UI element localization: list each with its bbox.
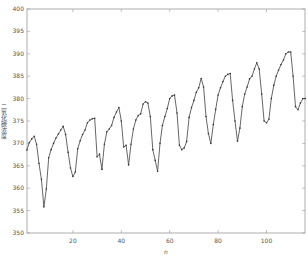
data-point-marker xyxy=(285,53,287,55)
data-point-marker xyxy=(55,137,57,139)
data-point-marker xyxy=(65,134,67,136)
data-point-marker xyxy=(174,94,176,96)
data-point-marker xyxy=(82,134,84,136)
data-point-marker xyxy=(280,64,282,66)
data-point-marker xyxy=(278,69,280,71)
data-point-marker xyxy=(261,93,263,95)
data-point-marker xyxy=(130,143,132,145)
data-point-marker xyxy=(300,102,302,104)
data-point-marker xyxy=(203,86,205,88)
x-axis-ticks: 20406080100 xyxy=(69,9,272,244)
data-point-marker xyxy=(297,109,299,111)
data-point-marker xyxy=(137,115,139,117)
x-tick-label: 60 xyxy=(166,237,174,244)
x-axis-label: n xyxy=(164,248,168,255)
data-point-marker xyxy=(159,143,161,145)
data-point-marker xyxy=(246,86,248,88)
x-tick-label: 100 xyxy=(261,237,273,244)
data-point-marker xyxy=(36,143,38,145)
data-point-marker xyxy=(53,143,55,145)
data-point-marker xyxy=(94,118,96,120)
data-point-marker xyxy=(111,125,113,127)
data-point-marker xyxy=(171,95,173,97)
data-point-marker xyxy=(70,167,72,169)
data-point-marker xyxy=(166,108,168,110)
data-point-marker xyxy=(101,169,103,171)
data-point-marker xyxy=(254,68,256,70)
data-point-marker xyxy=(275,75,277,77)
data-point-marker xyxy=(295,106,297,108)
data-point-marker xyxy=(220,87,222,89)
data-point-marker xyxy=(26,149,28,151)
data-point-marker xyxy=(304,98,306,100)
data-point-marker xyxy=(38,163,40,165)
data-point-marker xyxy=(89,119,91,121)
data-point-marker xyxy=(116,111,118,113)
data-point-marker xyxy=(142,103,144,105)
data-point-marker xyxy=(302,98,304,100)
data-point-marker xyxy=(271,98,273,100)
x-tick-label: 40 xyxy=(117,237,125,244)
data-point-marker xyxy=(87,122,89,124)
data-point-marker xyxy=(162,125,164,127)
data-point-marker xyxy=(145,101,147,103)
data-point-marker xyxy=(60,129,62,131)
data-point-marker xyxy=(179,144,181,146)
data-point-marker xyxy=(121,120,123,122)
data-point-marker xyxy=(237,140,239,142)
data-point-marker xyxy=(125,144,127,146)
data-point-marker xyxy=(183,147,185,149)
data-point-marker xyxy=(118,107,120,109)
data-point-marker xyxy=(222,81,224,83)
data-point-marker xyxy=(77,148,79,150)
data-point-marker xyxy=(256,62,258,64)
y-tick-label: 355 xyxy=(13,207,25,214)
x-tick-label: 20 xyxy=(69,237,77,244)
data-point-marker xyxy=(113,117,115,119)
data-point-marker xyxy=(234,120,236,122)
data-point-marker xyxy=(75,171,77,173)
data-point-marker xyxy=(287,51,289,53)
data-point-marker xyxy=(67,152,69,154)
data-point-marker xyxy=(208,133,210,135)
data-point-marker xyxy=(33,135,35,137)
data-point-marker xyxy=(200,78,202,80)
co2-series-markers xyxy=(26,51,306,208)
data-point-marker xyxy=(104,143,106,145)
data-point-marker xyxy=(91,118,93,120)
data-point-marker xyxy=(48,157,50,159)
co2-series-line xyxy=(27,52,305,207)
data-point-marker xyxy=(79,140,81,142)
data-point-marker xyxy=(123,146,125,148)
data-point-marker xyxy=(108,128,110,130)
y-tick-label: 390 xyxy=(13,50,25,57)
data-point-marker xyxy=(283,59,285,61)
y-tick-label: 400 xyxy=(13,5,25,12)
data-point-marker xyxy=(292,75,294,77)
data-point-marker xyxy=(43,206,45,208)
y-tick-label: 375 xyxy=(13,117,25,124)
y-tick-label: 395 xyxy=(13,27,25,34)
data-point-marker xyxy=(188,117,190,119)
data-point-marker xyxy=(150,116,152,118)
data-point-marker xyxy=(157,170,159,172)
data-point-marker xyxy=(99,153,101,155)
data-point-marker xyxy=(217,94,219,96)
data-point-marker xyxy=(41,178,43,180)
data-point-marker xyxy=(62,126,64,128)
data-point-marker xyxy=(244,93,246,95)
data-point-marker xyxy=(176,112,178,114)
data-point-marker xyxy=(212,124,214,126)
data-point-marker xyxy=(229,73,231,75)
line-chart: 350355360365370375380385390395400 204060… xyxy=(0,0,308,259)
y-tick-label: 350 xyxy=(13,229,25,236)
data-point-marker xyxy=(128,164,130,166)
y-tick-label: 385 xyxy=(13,72,25,79)
data-point-marker xyxy=(232,100,234,102)
data-point-marker xyxy=(251,75,253,77)
data-point-marker xyxy=(225,75,227,77)
data-point-marker xyxy=(181,149,183,151)
data-point-marker xyxy=(147,102,149,104)
data-point-marker xyxy=(50,149,52,151)
data-point-marker xyxy=(268,118,270,120)
